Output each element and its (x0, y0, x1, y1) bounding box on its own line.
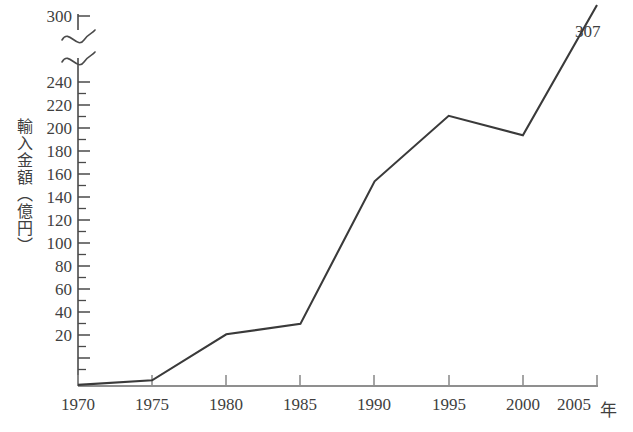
x-tick-label-1980: 1980 (190, 396, 262, 413)
line-chart: 300 240 220 200 180 160 140 120 100 80 6… (0, 0, 633, 432)
axis-break-squiggle-upper (62, 30, 95, 43)
y-axis-minor-ticks (78, 94, 86, 370)
y-tick-label-300: 300 (26, 8, 72, 25)
x-tick-label-1975: 1975 (116, 396, 188, 413)
x-tick-label-1970: 1970 (42, 396, 114, 413)
y-tick-label-160: 160 (26, 166, 72, 183)
x-tick-label-2005: 2005 (557, 396, 629, 413)
y-tick-label-240: 240 (26, 74, 72, 91)
x-tick-label-2000: 2000 (487, 396, 559, 413)
data-series-line (78, 5, 597, 385)
y-tick-label-120: 120 (26, 212, 72, 229)
y-tick-label-80: 80 (26, 258, 72, 275)
y-tick-label-180: 180 (26, 143, 72, 160)
y-tick-label-100: 100 (26, 235, 72, 252)
endpoint-value-annotation: 307 (575, 22, 601, 42)
x-axis-unit-label: 年 (600, 396, 617, 421)
y-tick-label-140: 140 (26, 189, 72, 206)
y-tick-label-220: 220 (26, 97, 72, 114)
x-tick-label-1985: 1985 (264, 396, 336, 413)
x-tick-label-1995: 1995 (413, 396, 485, 413)
x-axis-ticks (78, 375, 597, 386)
y-axis-major-ticks (78, 16, 90, 358)
chart-canvas (0, 0, 633, 432)
x-tick-label-1990: 1990 (338, 396, 410, 413)
y-axis-title: 輸入金額（億円） (6, 118, 32, 254)
y-tick-label-200: 200 (26, 120, 72, 137)
y-tick-label-60: 60 (26, 281, 72, 298)
y-tick-label-40: 40 (26, 304, 72, 321)
y-tick-label-20: 20 (26, 327, 72, 344)
